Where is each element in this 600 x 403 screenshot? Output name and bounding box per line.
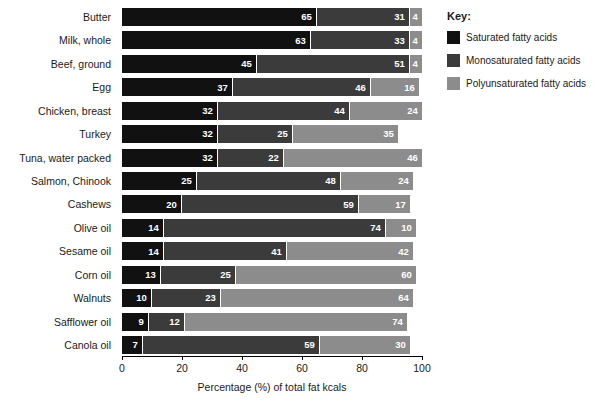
x-axis-title: Percentage (%) of total fat kcals [122,381,422,393]
bar-row: 322535 [122,125,422,143]
bar-segment-monosaturated: 31 [317,8,410,26]
category-label: Beef, ground [0,55,116,73]
category-label: Butter [0,8,116,26]
bar-segment-value: 10 [136,293,151,303]
bar-row: 65314 [122,8,422,26]
bar-segment-value: 14 [148,223,163,233]
bar-row: 144142 [122,242,422,260]
bar-segment-value: 41 [271,247,286,257]
bar-segment-polyunsaturated: 35 [293,125,398,143]
bar-segment-monosaturated: 33 [311,31,410,49]
bar-row: 205917 [122,195,422,213]
bar-segment-value: 25 [220,270,235,280]
legend-swatch-icon [447,31,460,44]
legend-items: Saturated fatty acidsMonosaturated fatty… [447,31,597,90]
bar-row: 324424 [122,102,422,120]
bar-segment-saturated: 13 [122,266,161,284]
bar-segment-monosaturated: 25 [218,125,293,143]
bar-segment-value: 33 [394,36,409,46]
bar-segment-monosaturated: 22 [218,149,284,167]
bar-segment-value: 20 [166,200,181,210]
bar-segment-value: 24 [398,176,413,186]
bar-segment-saturated: 14 [122,219,164,237]
bar-segment-saturated: 45 [122,55,257,73]
bar-segment-value: 13 [145,270,160,280]
bar-segment-monosaturated: 59 [143,336,320,354]
bar-segment-saturated: 10 [122,289,152,307]
bar-segment-value: 48 [325,176,340,186]
bar-segment-saturated: 32 [122,149,218,167]
bar-segment-monosaturated: 74 [164,219,386,237]
bar-segment-polyunsaturated: 24 [350,102,422,120]
category-label: Milk, whole [0,31,116,49]
bar-segment-value: 63 [295,36,310,46]
x-tick-label: 80 [356,362,368,374]
bar-segment-value: 32 [202,106,217,116]
legend-swatch-icon [447,77,460,90]
category-label: Corn oil [0,266,116,284]
category-label: Egg [0,78,116,96]
bar-segment-value: 44 [334,106,349,116]
bar-segment-monosaturated: 51 [257,55,410,73]
bar-segment-value: 32 [202,129,217,139]
bar-segment-value: 10 [401,223,416,233]
bar-row: 374616 [122,78,422,96]
category-axis-labels: ButterMilk, wholeBeef, groundEggChicken,… [0,8,116,354]
bar-segment-polyunsaturated: 24 [341,172,413,190]
bar-segment-polyunsaturated: 16 [371,78,419,96]
category-label: Turkey [0,125,116,143]
x-tick-mark [242,356,243,360]
bar-segment-value: 12 [169,317,184,327]
bar-segment-polyunsaturated: 30 [320,336,410,354]
bar-segment-polyunsaturated: 42 [287,242,413,260]
bar-segment-value: 17 [395,200,410,210]
category-label: Tuna, water packed [0,149,116,167]
legend-label: Monosaturated fatty acids [466,55,581,66]
bar-segment-saturated: 32 [122,102,218,120]
bar-segment-monosaturated: 44 [218,102,350,120]
bar-segment-value: 65 [301,12,316,22]
bar-segment-polyunsaturated: 74 [185,313,407,331]
legend-swatch-icon [447,54,460,67]
legend-item: Monosaturated fatty acids [447,54,597,67]
bar-segment-value: 45 [241,59,256,69]
stacked-bar-chart: ButterMilk, wholeBeef, groundEggChicken,… [0,0,600,403]
bar-segment-value: 74 [392,317,407,327]
bar-segment-value: 22 [268,153,283,163]
bar-row: 322246 [122,149,422,167]
bar-segment-monosaturated: 46 [233,78,371,96]
category-label: Olive oil [0,219,116,237]
x-tick-label: 0 [119,362,125,374]
bar-segment-value: 32 [202,153,217,163]
bar-segment-polyunsaturated: 4 [410,8,422,26]
bar-segment-saturated: 37 [122,78,233,96]
bar-segment-saturated: 65 [122,8,317,26]
bar-segment-saturated: 14 [122,242,164,260]
bar-segment-value: 25 [277,129,292,139]
x-tick-mark [302,356,303,360]
x-tick-label: 100 [413,362,431,374]
x-tick-mark [182,356,183,360]
bar-segment-value: 4 [413,36,422,46]
bar-segment-saturated: 20 [122,195,182,213]
bar-segment-saturated: 63 [122,31,311,49]
bar-segment-value: 4 [413,59,422,69]
bar-segment-polyunsaturated: 17 [359,195,410,213]
x-tick-label: 60 [296,362,308,374]
chart-legend: Key: Saturated fatty acidsMonosaturated … [447,10,597,100]
bar-segment-saturated: 25 [122,172,197,190]
x-axis-line [122,356,422,357]
legend-label: Polyunsaturated fatty acids [466,78,586,89]
category-label: Salmon, Chinook [0,172,116,190]
legend-label: Saturated fatty acids [466,32,557,43]
legend-item: Saturated fatty acids [447,31,597,44]
bar-row: 147410 [122,219,422,237]
bar-segment-polyunsaturated: 60 [236,266,416,284]
legend-title: Key: [447,10,597,22]
bar-segment-value: 30 [395,340,410,350]
bar-segment-value: 42 [398,247,413,257]
bar-segment-monosaturated: 41 [164,242,287,260]
bar-row: 45514 [122,55,422,73]
bar-segment-value: 37 [217,83,232,93]
x-tick-mark [122,356,123,360]
